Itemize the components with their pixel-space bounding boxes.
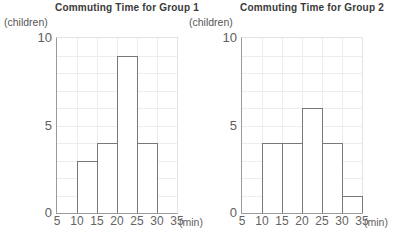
histogram-bar — [282, 143, 303, 213]
chart-title: Commuting Time for Group 2 — [232, 2, 392, 14]
histogram-bar — [342, 196, 363, 214]
histogram-bar — [137, 143, 158, 213]
plot-area: 05105101520253035 — [241, 37, 363, 214]
histogram-bar — [97, 143, 118, 213]
histogram-bar — [77, 161, 98, 214]
x-axis-unit-label: (min) — [364, 216, 388, 228]
chart-group-2: Commuting Time for Group 2 (children) 05… — [185, 0, 415, 239]
chart-title: Commuting Time for Group 1 — [47, 2, 207, 14]
histogram-bar — [302, 108, 323, 213]
histogram-bar — [117, 56, 138, 214]
y-axis-unit-label: (children) — [4, 16, 48, 28]
histogram-bar — [322, 143, 343, 213]
y-tick-label: 5 — [203, 118, 237, 134]
histogram-figure: Commuting Time for Group 1 (children) 05… — [0, 0, 415, 239]
y-tick-label: 5 — [18, 118, 52, 134]
histogram-bar — [262, 143, 283, 213]
y-axis-unit-label: (children) — [189, 16, 233, 28]
y-tick-label: 10 — [18, 30, 52, 46]
plot-area: 05105101520253035 — [56, 37, 178, 214]
y-tick-label: 10 — [203, 30, 237, 46]
